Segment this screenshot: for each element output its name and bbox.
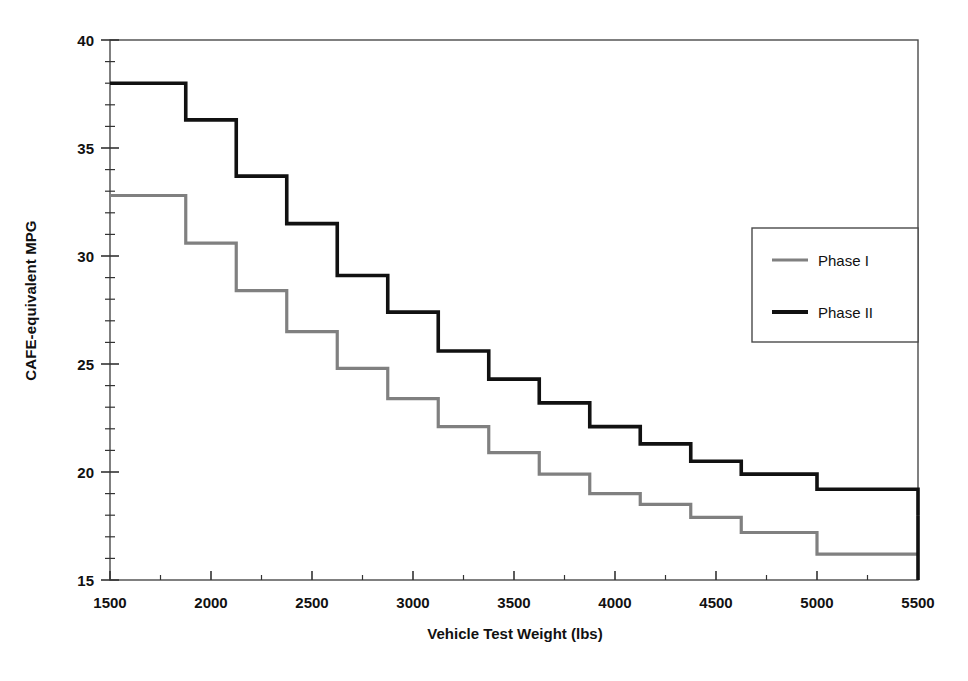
x-axis-tick-labels: 150020002500300035004000450050005500 — [93, 594, 934, 611]
x-tick-label: 4500 — [699, 594, 732, 611]
chart-figure: CAFE-equivalent MPG Vehicle Test Weight … — [0, 0, 968, 681]
y-tick-label: 25 — [77, 356, 94, 373]
legend-box — [752, 228, 918, 342]
x-tick-label: 5000 — [800, 594, 833, 611]
y-tick-label: 30 — [77, 248, 94, 265]
y-tick-label: 35 — [77, 140, 94, 157]
x-axis-label: Vehicle Test Weight (lbs) — [110, 625, 920, 642]
legend-label-2: Phase II — [818, 304, 873, 321]
chart-plot-area: 150020002500300035004000450050005500 152… — [0, 0, 968, 681]
y-tick-label: 20 — [77, 464, 94, 481]
x-axis-ticks — [110, 571, 918, 580]
x-tick-label: 1500 — [93, 594, 126, 611]
x-tick-label: 3000 — [396, 594, 429, 611]
legend-label-1: Phase I — [818, 252, 869, 269]
y-tick-label: 15 — [77, 572, 94, 589]
x-tick-label: 5500 — [901, 594, 934, 611]
x-tick-label: 4000 — [598, 594, 631, 611]
x-tick-label: 2500 — [295, 594, 328, 611]
y-axis-label-container: CAFE-equivalent MPG — [10, 0, 50, 600]
y-axis-label: CAFE-equivalent MPG — [22, 220, 39, 380]
x-tick-label: 3500 — [497, 594, 530, 611]
chart-legend: Phase IPhase II — [752, 228, 918, 342]
y-tick-label: 40 — [77, 32, 94, 49]
y-axis-tick-labels: 152025303540 — [77, 32, 94, 589]
x-tick-label: 2000 — [194, 594, 227, 611]
